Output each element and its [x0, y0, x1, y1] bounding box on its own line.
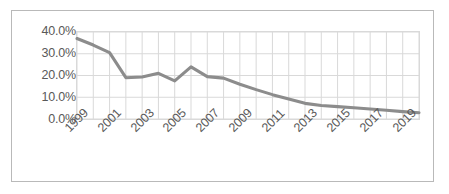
x-axis-tick-labels: 1999200120032005200720092011201320152017… [76, 121, 420, 181]
plot-area [76, 31, 420, 120]
data-line-series [77, 32, 419, 119]
y-axis-tick-label: 10.0% [18, 90, 76, 104]
chart-plot-wrapper: 40.0% 30.0% 20.0% 10.0% 0.0% 19992001200… [12, 11, 433, 181]
chart-container: 40.0% 30.0% 20.0% 10.0% 0.0% 19992001200… [11, 10, 434, 182]
y-axis-tick-label: 40.0% [18, 24, 76, 38]
y-axis-tick-label: 20.0% [18, 68, 76, 82]
y-axis-tick-label: 30.0% [18, 46, 76, 60]
